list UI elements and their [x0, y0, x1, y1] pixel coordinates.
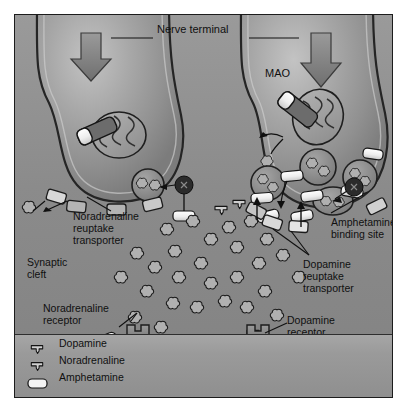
legend-item-dopamine: Dopamine	[59, 337, 107, 349]
diagram-frame: Nerve terminal MAO Noradrenaline reuptak…	[14, 14, 393, 398]
legend-item-amphetamine: Amphetamine	[59, 371, 124, 383]
legend-item-noradrenaline: Noradrenaline	[59, 354, 125, 366]
dopamine-glyph-icon	[31, 346, 42, 354]
legend-icons	[25, 343, 51, 389]
noradrenaline-glyph-icon	[31, 363, 42, 371]
amphetamine-capsule-icon	[28, 379, 47, 388]
synapse-diagram: Nerve terminal MAO Noradrenaline reuptak…	[0, 0, 405, 410]
legend: Dopamine Noradrenaline Amphetamine	[15, 334, 392, 397]
